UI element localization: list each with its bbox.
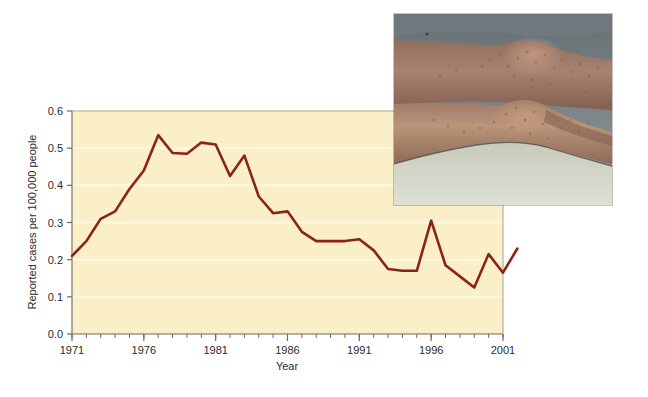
y-tick-labels: 0.00.10.20.30.40.50.6	[48, 105, 63, 340]
y-tick-label: 0.2	[48, 254, 63, 266]
x-tick-labels: 1971197619811986199119962001	[60, 344, 515, 356]
y-tick-label: 0.4	[48, 179, 63, 191]
x-tick-label: 1986	[275, 344, 299, 356]
figure: 1971197619811986199119962001 0.00.10.20.…	[0, 0, 648, 397]
x-axis-title: Year	[276, 360, 299, 372]
clinical-photo-inset	[394, 14, 612, 205]
y-tick-label: 0.6	[48, 105, 63, 117]
y-tick-label: 0.3	[48, 217, 63, 229]
x-tick-label: 1981	[203, 344, 227, 356]
x-tick-label: 1991	[347, 344, 371, 356]
x-tick-label: 1996	[419, 344, 443, 356]
y-tick-label: 0.5	[48, 142, 63, 154]
x-tick-label: 1971	[60, 344, 84, 356]
clinical-photo-image	[394, 14, 612, 205]
x-tick-label: 1976	[132, 344, 156, 356]
x-tick-label: 2001	[491, 344, 515, 356]
y-axis-title: Reported cases per 100,000 people	[26, 135, 38, 310]
y-tick-label: 0.0	[48, 328, 63, 340]
major-x-ticks	[72, 334, 503, 341]
y-tick-label: 0.1	[48, 291, 63, 303]
y-ticks	[67, 111, 72, 334]
